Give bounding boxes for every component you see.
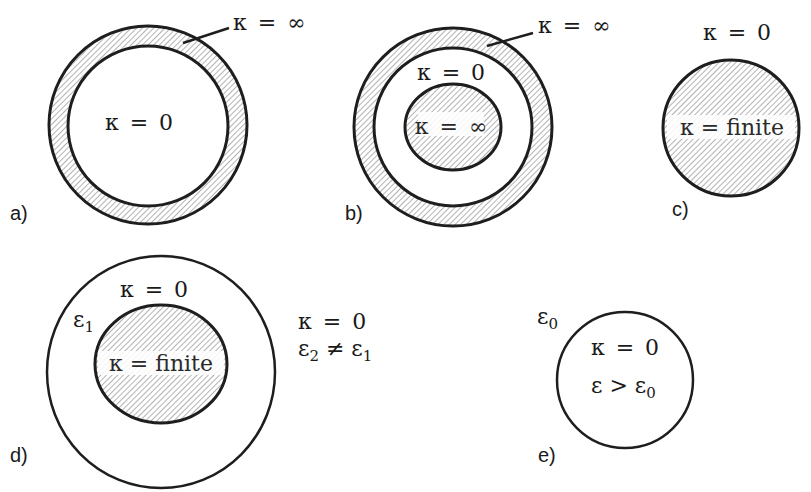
exterior-label-c: κ = 0 [703, 20, 773, 45]
exterior-conductivity-d: κ = 0 [298, 309, 368, 334]
shell-label-d: κ = 0 [120, 277, 190, 302]
panel-label-b: b) [345, 202, 363, 224]
exterior-permittivity-e: ε0 [537, 304, 558, 333]
gap-label-b: κ = 0 [417, 60, 487, 85]
panel-label-d: d) [10, 444, 28, 466]
shell-label-a: κ = ∞ [233, 10, 308, 35]
conductivity-configurations-diagram: κ = ∞ κ = 0 a) κ = ∞ κ = 0 κ = ∞ b) κ = … [0, 0, 811, 492]
panel-a: κ = ∞ κ = 0 a) [10, 10, 308, 224]
exterior-permittivity-d: ε2 ≠ ε1 [298, 336, 372, 365]
interior-conductivity-e: κ = 0 [591, 335, 661, 360]
body-label-c: κ = finite [680, 115, 784, 140]
shell-label-b: κ = ∞ [538, 13, 613, 38]
panel-e: ε0 κ = 0 ε > ε0 e) [537, 304, 693, 466]
core-label-d: κ = finite [109, 351, 213, 376]
panel-c: κ = 0 κ = finite c) [663, 20, 799, 220]
panel-d: κ = 0 ε1 κ = finite κ = 0 ε2 ≠ ε1 d) [10, 256, 372, 488]
interior-relation-e: ε > ε0 [591, 373, 656, 402]
interior-label-a: κ = 0 [105, 110, 175, 135]
core-label-b: κ = ∞ [415, 114, 490, 139]
panel-label-c: c) [672, 198, 689, 220]
panel-b: κ = ∞ κ = 0 κ = ∞ b) [345, 13, 613, 226]
panel-label-e: e) [538, 444, 556, 466]
panel-label-a: a) [10, 202, 28, 224]
